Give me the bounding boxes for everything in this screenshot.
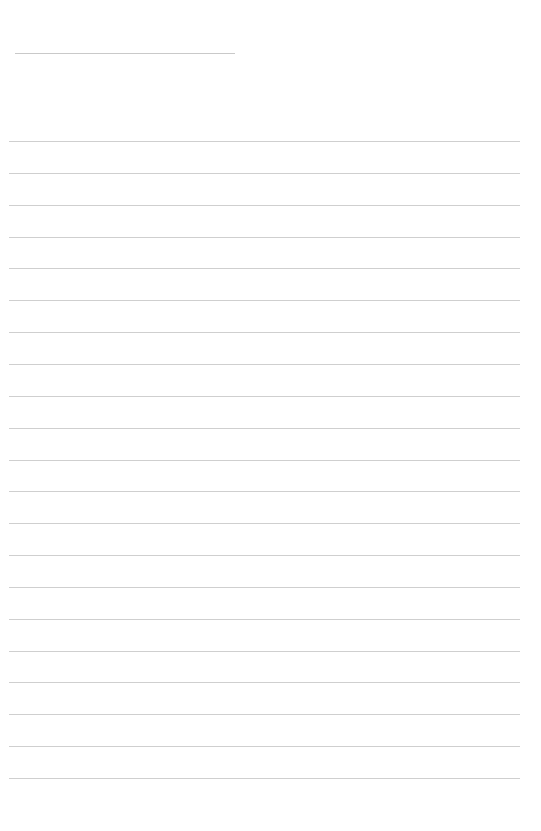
ruled-line — [9, 332, 520, 333]
ruled-line — [9, 141, 520, 142]
ruled-line — [9, 619, 520, 620]
ruled-line — [9, 237, 520, 238]
ruled-line — [9, 205, 520, 206]
ruled-line — [9, 682, 520, 683]
ruled-line — [9, 651, 520, 652]
ruled-line — [9, 173, 520, 174]
ruled-line — [9, 491, 520, 492]
ruled-line — [9, 746, 520, 747]
ruled-line — [9, 778, 520, 779]
ruled-line — [9, 460, 520, 461]
ruled-line — [9, 364, 520, 365]
ruled-line — [9, 428, 520, 429]
ruled-line — [9, 300, 520, 301]
ruled-line — [9, 587, 520, 588]
title-line — [15, 53, 235, 54]
ruled-line — [9, 396, 520, 397]
ruled-line — [9, 268, 520, 269]
ruled-line — [9, 714, 520, 715]
ruled-line — [9, 555, 520, 556]
ruled-line — [9, 523, 520, 524]
